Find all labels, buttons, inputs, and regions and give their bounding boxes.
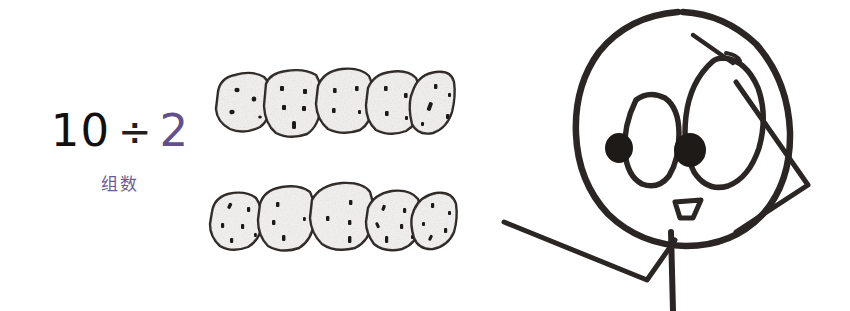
cookie-row-top bbox=[208, 64, 456, 148]
division-operator-icon: ÷ bbox=[118, 111, 153, 151]
dividend-value: 10 bbox=[51, 108, 110, 153]
cookie-item bbox=[411, 193, 456, 249]
cookie-item bbox=[216, 73, 271, 132]
equation-block: 10 ÷ 2 组数 bbox=[40, 100, 200, 210]
cookie-row-top-svg bbox=[208, 64, 456, 148]
cookie-row-bottom bbox=[200, 178, 458, 262]
left-eye bbox=[625, 94, 679, 185]
left-arm bbox=[504, 222, 675, 280]
cookie-row-bottom-svg bbox=[200, 178, 458, 262]
cookie-item bbox=[310, 183, 373, 250]
face-drawing bbox=[490, 0, 850, 311]
divisor-caption-label: 组数 bbox=[40, 170, 200, 195]
collar bbox=[736, 82, 808, 232]
cookie-item bbox=[316, 69, 374, 133]
cookie-item bbox=[264, 70, 321, 137]
left-pupil bbox=[606, 134, 632, 162]
division-equation: 10 ÷ 2 bbox=[40, 100, 200, 160]
body-line bbox=[671, 232, 673, 311]
face-drawing-svg bbox=[490, 0, 850, 311]
right-eye bbox=[685, 58, 763, 187]
worksheet-canvas: 10 ÷ 2 组数 bbox=[0, 0, 850, 311]
right-pupil bbox=[675, 134, 705, 166]
divisor-value: 2 bbox=[160, 108, 190, 153]
cookie-item bbox=[210, 193, 262, 250]
cookie-item bbox=[258, 186, 315, 250]
mouth bbox=[675, 200, 701, 218]
